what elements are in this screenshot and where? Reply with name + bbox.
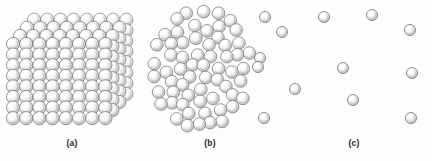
sphere	[148, 70, 161, 83]
sphere	[165, 37, 178, 50]
sphere	[237, 62, 250, 75]
panel-liquid-random-packing: (b)	[144, 0, 276, 161]
sphere	[152, 86, 165, 99]
sphere	[46, 112, 59, 125]
sphere	[33, 112, 46, 125]
panel-a-caption: (a)	[0, 138, 144, 148]
sphere	[348, 95, 359, 106]
sphere	[367, 10, 378, 21]
sphere	[86, 112, 99, 125]
sphere	[155, 98, 168, 111]
sphere	[197, 59, 210, 72]
sphere	[259, 113, 270, 124]
sphere	[189, 19, 202, 32]
sphere	[221, 50, 234, 63]
sphere	[151, 38, 164, 51]
sphere	[194, 83, 207, 96]
panel-gas-dispersed: (c)	[276, 0, 432, 161]
sphere	[176, 37, 189, 50]
sphere	[171, 13, 184, 26]
sphere	[203, 38, 216, 51]
panel-b-caption: (b)	[144, 138, 276, 148]
sphere	[405, 25, 416, 36]
sphere	[199, 71, 212, 84]
sphere	[260, 12, 271, 23]
panel-c-caption: (c)	[276, 138, 432, 148]
states-of-matter-figure: (a) (b) (c)	[0, 0, 432, 161]
sphere	[207, 92, 220, 105]
sphere	[319, 12, 330, 23]
sphere	[230, 24, 243, 37]
sphere	[233, 37, 246, 50]
sphere	[181, 119, 194, 132]
sphere	[214, 104, 227, 117]
sphere	[6, 112, 19, 125]
sphere	[406, 113, 417, 124]
sphere	[277, 27, 288, 38]
sphere	[338, 63, 349, 74]
panel-solid-lattice: (a)	[0, 0, 144, 161]
sphere	[20, 112, 33, 125]
sphere	[226, 100, 239, 113]
sphere	[182, 107, 195, 120]
sphere	[243, 47, 256, 60]
solid-lattice-illustration	[0, 0, 144, 135]
sphere	[290, 84, 301, 95]
sphere	[190, 32, 203, 45]
gas-dispersed-illustration	[276, 0, 432, 135]
panel-c-stage	[276, 0, 432, 135]
sphere	[234, 75, 247, 88]
sphere	[193, 118, 206, 131]
sphere	[212, 62, 225, 75]
sphere	[197, 5, 210, 18]
sphere	[219, 39, 232, 52]
sphere	[59, 112, 72, 125]
sphere	[201, 25, 214, 38]
sphere	[253, 62, 264, 73]
sphere	[99, 112, 112, 125]
sphere	[72, 112, 85, 125]
sphere	[216, 115, 229, 128]
sphere	[165, 49, 178, 62]
sphere	[237, 92, 250, 105]
sphere	[407, 68, 418, 79]
panel-a-stage	[0, 0, 144, 135]
sphere	[212, 7, 225, 20]
sphere	[194, 95, 207, 108]
sphere	[148, 58, 161, 71]
